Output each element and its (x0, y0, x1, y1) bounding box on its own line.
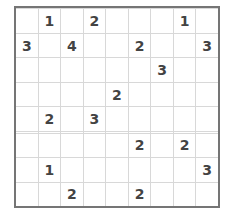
grid-cell-empty[interactable] (106, 58, 129, 83)
grid-cell-empty[interactable] (196, 9, 218, 34)
grid-cell-empty[interactable] (38, 133, 61, 158)
grid-cell-filled[interactable]: 2 (128, 133, 151, 158)
grid-cell-empty[interactable] (16, 82, 38, 107)
grid-cell-empty[interactable] (83, 33, 106, 58)
grid-cell-empty[interactable] (61, 107, 84, 132)
grid-row: 2 (16, 82, 218, 107)
grid-cell-filled[interactable]: 1 (173, 9, 196, 34)
grid-cell-empty[interactable] (151, 107, 174, 132)
grid-cell-empty[interactable] (173, 158, 196, 183)
grid-cell-empty[interactable] (16, 9, 38, 34)
puzzle-grid-body: 12134233223221322 (16, 8, 218, 206)
grid-cell-empty[interactable] (38, 58, 61, 83)
grid-cell-empty[interactable] (83, 133, 106, 158)
puzzle-grid-frame: 12134233223221322 (14, 6, 220, 208)
grid-cell-empty[interactable] (16, 158, 38, 183)
grid-cell-empty[interactable] (16, 133, 38, 158)
grid-cell-empty[interactable] (196, 107, 218, 132)
grid-cell-empty[interactable] (106, 133, 129, 158)
grid-cell-filled[interactable]: 2 (38, 107, 61, 132)
grid-cell-empty[interactable] (151, 158, 174, 183)
grid-cell-empty[interactable] (196, 58, 218, 83)
grid-cell-empty[interactable] (173, 58, 196, 83)
grid-cell-empty[interactable] (83, 182, 106, 206)
grid-cell-empty[interactable] (151, 33, 174, 58)
grid-cell-empty[interactable] (128, 107, 151, 132)
grid-cell-empty[interactable] (38, 82, 61, 107)
grid-cell-empty[interactable] (61, 133, 84, 158)
grid-cell-empty[interactable] (83, 82, 106, 107)
grid-cell-empty[interactable] (106, 158, 129, 183)
grid-cell-empty[interactable] (106, 9, 129, 34)
grid-cell-empty[interactable] (128, 82, 151, 107)
grid-cell-empty[interactable] (128, 9, 151, 34)
grid-row: 121 (16, 9, 218, 34)
grid-cell-empty[interactable] (16, 182, 38, 206)
grid-cell-filled[interactable]: 2 (83, 9, 106, 34)
grid-cell-empty[interactable] (151, 9, 174, 34)
grid-cell-empty[interactable] (196, 133, 218, 158)
grid-cell-empty[interactable] (106, 107, 129, 132)
grid-cell-filled[interactable]: 1 (38, 9, 61, 34)
grid-cell-empty[interactable] (196, 182, 218, 206)
grid-cell-filled[interactable]: 2 (61, 182, 84, 206)
grid-row: 3423 (16, 33, 218, 58)
grid-cell-filled[interactable]: 3 (196, 33, 218, 58)
grid-row: 22 (16, 133, 218, 158)
grid-cell-empty[interactable] (61, 82, 84, 107)
grid-cell-empty[interactable] (173, 107, 196, 132)
grid-cell-empty[interactable] (83, 58, 106, 83)
grid-cell-empty[interactable] (128, 158, 151, 183)
puzzle-grid: 12134233223221322 (16, 8, 218, 206)
grid-cell-empty[interactable] (173, 82, 196, 107)
grid-cell-empty[interactable] (38, 182, 61, 206)
grid-cell-empty[interactable] (16, 107, 38, 132)
grid-cell-filled[interactable]: 3 (83, 107, 106, 132)
grid-row: 22 (16, 182, 218, 206)
grid-row: 23 (16, 107, 218, 132)
grid-cell-empty[interactable] (151, 133, 174, 158)
grid-cell-empty[interactable] (106, 182, 129, 206)
grid-cell-filled[interactable]: 2 (106, 82, 129, 107)
grid-cell-filled[interactable]: 3 (151, 58, 174, 83)
grid-cell-filled[interactable]: 1 (38, 158, 61, 183)
grid-cell-empty[interactable] (196, 82, 218, 107)
grid-cell-filled[interactable]: 2 (128, 182, 151, 206)
grid-cell-empty[interactable] (61, 58, 84, 83)
grid-cell-empty[interactable] (128, 58, 151, 83)
grid-cell-empty[interactable] (151, 82, 174, 107)
grid-row: 3 (16, 58, 218, 83)
grid-cell-filled[interactable]: 2 (128, 33, 151, 58)
grid-cell-empty[interactable] (61, 158, 84, 183)
grid-row: 13 (16, 158, 218, 183)
grid-cell-empty[interactable] (106, 33, 129, 58)
grid-cell-empty[interactable] (151, 182, 174, 206)
grid-cell-empty[interactable] (61, 9, 84, 34)
grid-cell-empty[interactable] (173, 182, 196, 206)
grid-cell-empty[interactable] (16, 58, 38, 83)
grid-cell-empty[interactable] (173, 33, 196, 58)
grid-cell-filled[interactable]: 2 (173, 133, 196, 158)
grid-cell-filled[interactable]: 3 (16, 33, 38, 58)
puzzle-root: 12134233223221322 (0, 0, 229, 215)
grid-cell-filled[interactable]: 4 (61, 33, 84, 58)
grid-cell-empty[interactable] (38, 33, 61, 58)
grid-cell-empty[interactable] (83, 158, 106, 183)
grid-cell-filled[interactable]: 3 (196, 158, 218, 183)
